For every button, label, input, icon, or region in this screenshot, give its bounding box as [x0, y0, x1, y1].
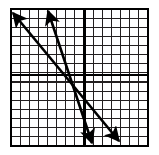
coordinate-grid-graph — [0, 0, 159, 155]
plot-background — [11, 9, 148, 146]
graph-figure — [0, 0, 159, 155]
